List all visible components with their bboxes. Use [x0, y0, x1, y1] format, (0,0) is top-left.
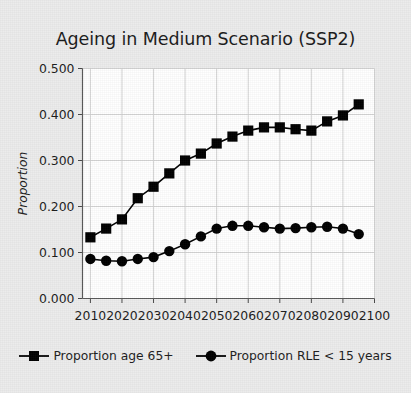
y-tick-label: 0.300 — [39, 153, 75, 168]
data-point-circle — [180, 239, 190, 249]
x-tick-label: 2020 — [106, 308, 138, 323]
data-point-circle — [322, 222, 332, 232]
y-tick-label: 0.200 — [39, 199, 75, 214]
data-point-circle — [211, 223, 221, 233]
data-point-square — [180, 155, 190, 165]
legend-label-series-0: Proportion age 65+ — [53, 349, 173, 363]
chart-legend: Proportion age 65+ Proportion RLE < 15 y… — [0, 349, 411, 363]
data-point-square — [322, 116, 332, 126]
data-point-square — [133, 193, 143, 203]
data-point-circle — [275, 223, 285, 233]
data-point-circle — [243, 221, 253, 231]
data-point-square — [290, 124, 300, 134]
legend-marker-circle-icon — [196, 349, 226, 363]
data-point-circle — [85, 254, 95, 264]
data-point-square — [338, 110, 348, 120]
legend-label-series-1: Proportion RLE < 15 years — [230, 349, 392, 363]
data-point-square — [196, 149, 206, 159]
data-point-square — [85, 232, 95, 242]
data-point-square — [164, 168, 174, 178]
x-tick-label: 2070 — [264, 308, 296, 323]
data-point-circle — [338, 223, 348, 233]
legend-marker-square-icon — [19, 349, 49, 363]
data-point-circle — [164, 246, 174, 256]
x-tick-label: 2010 — [75, 308, 107, 323]
x-tick-label: 2030 — [138, 308, 170, 323]
data-point-circle — [101, 256, 111, 266]
x-tick-label: 2050 — [201, 308, 233, 323]
data-point-square — [101, 223, 111, 233]
data-point-square — [227, 131, 237, 141]
y-tick-label: 0.400 — [39, 107, 75, 122]
y-axis-title: Proportion — [16, 152, 30, 215]
x-tick-label: 2040 — [169, 308, 201, 323]
y-tick-label: 0.500 — [39, 61, 75, 76]
y-tick-label: 0.100 — [39, 245, 75, 260]
data-point-square — [117, 214, 127, 224]
data-point-square — [243, 126, 253, 136]
data-point-circle — [227, 221, 237, 231]
data-point-circle — [259, 222, 269, 232]
data-point-square — [306, 126, 316, 136]
chart-plot-area: 0.0000.1000.2000.3000.4000.5002010202020… — [0, 0, 411, 393]
data-point-circle — [117, 256, 127, 266]
data-point-circle — [290, 223, 300, 233]
chart-figure: Ageing in Medium Scenario (SSP2) 0.0000.… — [0, 0, 411, 393]
data-point-square — [212, 138, 222, 148]
data-point-square — [275, 122, 285, 132]
x-tick-label: 2060 — [232, 308, 264, 323]
data-point-square — [354, 99, 364, 109]
x-tick-label: 2100 — [359, 308, 391, 323]
data-point-square — [148, 182, 158, 192]
data-point-circle — [148, 252, 158, 262]
y-tick-label: 0.000 — [39, 291, 75, 306]
data-point-square — [259, 122, 269, 132]
data-point-circle — [196, 231, 206, 241]
data-point-circle — [354, 229, 364, 239]
x-tick-label: 2090 — [327, 308, 359, 323]
data-point-circle — [306, 222, 316, 232]
legend-item-series-0: Proportion age 65+ — [19, 349, 173, 363]
x-tick-label: 2080 — [296, 308, 328, 323]
legend-item-series-1: Proportion RLE < 15 years — [196, 349, 392, 363]
data-point-circle — [133, 254, 143, 264]
